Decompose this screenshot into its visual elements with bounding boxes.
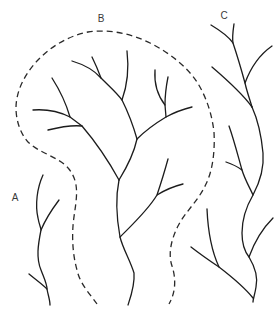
network-c-tributary-4 (249, 218, 273, 257)
stream-network-b (33, 51, 192, 305)
network-b-trunk-lower (117, 180, 134, 305)
network-a-upper-tributary (41, 200, 59, 230)
label-network-b: B (98, 13, 105, 24)
network-b-tributary-7 (157, 184, 183, 195)
network-c-main-channel (242, 107, 263, 302)
network-b-lower-right-limb (120, 159, 168, 237)
network-b-tributary-6 (48, 126, 82, 130)
network-b-tributary-1 (92, 57, 101, 78)
network-b-tributary-3 (155, 70, 166, 117)
network-b-left-limb (33, 110, 119, 180)
drainage-network-figure: A B C (0, 0, 280, 312)
network-c-tributary-2 (245, 46, 272, 83)
stream-network-layer (29, 24, 273, 305)
label-network-a: A (12, 192, 19, 203)
network-c-lower-left-limb (191, 247, 253, 298)
network-c-top-limb (211, 25, 252, 107)
network-b-trunk-middle (119, 139, 137, 180)
network-b-tributary-4 (165, 77, 168, 105)
network-a-lower-tributary (29, 274, 47, 289)
stream-network-a (29, 175, 59, 305)
network-c-tributary-5 (207, 209, 219, 267)
stream-network-c (191, 24, 273, 302)
network-labels: A B C (12, 10, 228, 203)
network-b-right-limb (137, 107, 192, 139)
watershed-boundary-layer (16, 31, 214, 304)
network-c-tributary-1 (233, 24, 234, 43)
network-c-inner-channel (229, 126, 253, 195)
label-network-c: C (220, 10, 227, 21)
network-b-tributary-2 (122, 51, 128, 100)
network-b-watershed-boundary (16, 31, 214, 304)
drainage-network-diagram: A B C (0, 0, 280, 312)
